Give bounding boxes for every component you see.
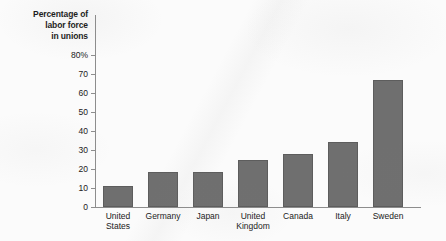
y-axis-title-line-1: Percentage of (4, 9, 88, 20)
y-axis-tick-80 (91, 55, 96, 56)
category-label-sweden: Sweden (357, 211, 419, 221)
y-axis-tick-60 (91, 93, 96, 94)
y-axis-tick-70 (91, 74, 96, 75)
y-axis-title: Percentage of labor force in unions (4, 9, 88, 43)
bar-united-kingdom (238, 160, 268, 208)
bar-sweden (373, 80, 403, 207)
y-axis-title-line-3: in unions (4, 31, 88, 42)
y-axis-tick-0 (91, 207, 96, 208)
y-axis-tick-30 (91, 150, 96, 151)
category-label-line-2: Kingdom (222, 221, 284, 231)
x-axis-line (95, 207, 421, 208)
y-axis-title-line-2: labor force (4, 20, 88, 31)
bar-chart: Percentage of labor force in unions 80%7… (0, 0, 446, 241)
y-axis-tick-40 (91, 131, 96, 132)
y-axis-tick-label-10: 10 (79, 184, 88, 193)
y-axis-tick-20 (91, 169, 96, 170)
bar-italy (328, 142, 358, 207)
y-axis-tick-10 (91, 188, 96, 189)
category-label-line-2: States (87, 221, 149, 231)
y-axis-tick-50 (91, 112, 96, 113)
bar-germany (148, 172, 178, 207)
y-axis-tick-label-50: 50 (79, 108, 88, 117)
y-axis-tick-label-80: 80% (71, 51, 88, 60)
y-axis-tick-label-60: 60 (79, 89, 88, 98)
y-axis-tick-label-70: 70 (79, 70, 88, 79)
category-label-line-1: Sweden (357, 211, 419, 221)
bar-japan (193, 172, 223, 207)
y-axis-tick-label-20: 20 (79, 165, 88, 174)
bar-canada (283, 154, 313, 207)
bar-united-states (103, 186, 133, 207)
y-axis-tick-label-30: 30 (79, 146, 88, 155)
y-axis-tick-label-40: 40 (79, 127, 88, 136)
